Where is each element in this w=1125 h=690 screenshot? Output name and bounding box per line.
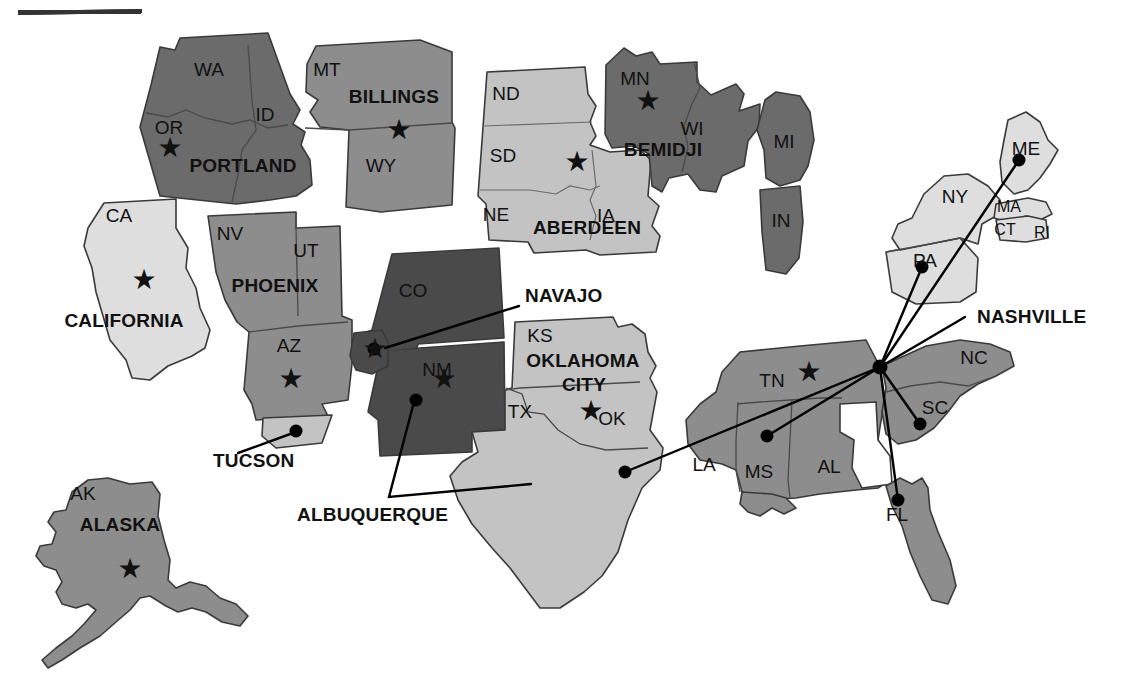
state-label-me: ME [1012,138,1041,159]
area-label-california: CALIFORNIA [64,310,183,331]
state-label-id: ID [256,104,275,125]
location-dot-tucson[interactable] [290,425,303,438]
callout-label-albuquerque: ALBUQUERQUE [297,504,448,525]
star-alaska: ★ [117,552,142,585]
state-label-wa: WA [194,59,224,80]
state-label-nd: ND [492,83,519,104]
state-label-ne: NE [483,204,509,225]
state-label-ma: MA [997,198,1021,215]
endpoint-dot-south-carolina[interactable] [914,418,927,431]
state-label-ut: UT [293,240,319,261]
state-label-nv: NV [217,223,244,244]
state-label-la: LA [692,454,716,475]
state-label-wi: WI [680,118,703,139]
map-canvas: ★★★★★★★★★★★ WAORIDMTWYNDSDNEIAMNWIMIINCA… [0,0,1125,690]
region-nashville-carolinas[interactable] [882,340,1014,444]
state-label-ks: KS [527,325,552,346]
endpoint-dot-texas[interactable] [619,466,632,479]
state-label-sd: SD [490,145,516,166]
star-california: ★ [131,263,156,296]
area-label-oklahoma-city: CITY [562,374,606,395]
state-label-mi: MI [773,131,794,152]
state-label-ca: CA [106,205,133,226]
area-label-portland: PORTLAND [189,155,296,176]
state-label-nc: NC [960,347,987,368]
area-label-phoenix: PHOENIX [232,275,319,296]
callout-label-tucson: TUCSON [213,450,294,471]
state-label-ak: AK [70,483,96,504]
carolinas-shape [882,340,1014,444]
endpoint-dot-mississippi[interactable] [761,430,774,443]
location-dot-albuquerque[interactable] [410,394,423,407]
star-montana: ★ [386,113,411,146]
state-label-wy: WY [366,155,397,176]
state-label-in: IN [772,210,791,231]
state-label-ct: CT [994,221,1016,238]
state-label-ny: NY [942,186,969,207]
state-label-az: AZ [277,335,302,356]
star-arizona: ★ [278,362,303,395]
state-label-nm: NM [422,359,452,380]
star-navajo: ★ [362,332,387,365]
state-label-or: OR [155,117,184,138]
callout-label-nashville: NASHVILLE [977,306,1086,327]
state-label-tx: TX [508,401,533,422]
state-label-al: AL [817,456,840,477]
area-label-aberdeen: ABERDEEN [533,217,641,238]
area-label-bemidji: BEMIDJI [624,139,702,160]
region-nashville-south[interactable] [686,340,892,516]
hub-dot-nashville[interactable] [873,360,888,375]
state-label-mn: MN [620,68,650,89]
state-label-pa: PA [913,250,937,271]
state-label-ms: MS [745,461,774,482]
state-label-ri: RI [1034,224,1050,241]
state-label-fl: FL [886,504,908,525]
area-label-alaska: ALASKA [80,514,160,535]
united-states-regional-map: ★★★★★★★★★★★ WAORIDMTWYNDSDNEIAMNWIMIINCA… [0,0,1125,690]
area-label-billings: BILLINGS [349,86,439,107]
state-label-ok: OK [598,408,626,429]
state-label-tn: TN [759,370,784,391]
star-south-dakota: ★ [564,145,589,178]
state-label-mt: MT [313,59,341,80]
state-label-sc: SC [922,397,948,418]
state-label-co: CO [399,280,428,301]
callout-label-navajo: NAVAJO [525,285,603,306]
region-phoenix[interactable] [208,212,352,448]
star-tennessee: ★ [796,355,821,388]
area-label-oklahoma: OKLAHOMA [526,350,640,371]
